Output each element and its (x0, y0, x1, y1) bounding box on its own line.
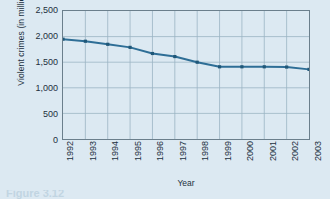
x-tick-label: 2003 (314, 141, 323, 161)
y-tick-label: 0 (22, 136, 58, 145)
grid-lines (63, 11, 309, 139)
data-point-marker (263, 65, 266, 68)
x-tick-label: 1994 (111, 141, 120, 161)
x-tick-label: 1999 (224, 141, 233, 161)
data-point-marker (106, 43, 109, 46)
x-axis-tick-labels: 1992199319941995199619971998199920002001… (62, 141, 310, 181)
x-tick-label: 1997 (179, 141, 188, 161)
x-tick-label: 1996 (156, 141, 165, 161)
data-point-marker (218, 65, 221, 68)
figure-caption-strip: Figure 3.12 (0, 190, 330, 199)
y-axis-tick-labels: 05001,0001,5002,0002,500 (20, 0, 58, 199)
line-chart-svg (63, 11, 309, 139)
y-tick-label: 1,500 (22, 58, 58, 67)
data-line (63, 39, 309, 69)
data-point-marker (63, 38, 65, 41)
x-tick-label: 1992 (66, 141, 75, 161)
data-point-marker (173, 55, 176, 58)
plot-area (62, 10, 310, 140)
x-tick-label: 1993 (89, 141, 98, 161)
data-point-marker (196, 61, 199, 64)
figure-caption: Figure 3.12 (6, 190, 64, 199)
data-point-marker (129, 46, 132, 49)
y-tick-label: 2,500 (22, 6, 58, 15)
x-tick-label: 2000 (246, 141, 255, 161)
data-point-marker (151, 52, 154, 55)
data-point-marker (84, 40, 87, 43)
x-tick-label: 2002 (291, 141, 300, 161)
y-tick-label: 2,000 (22, 32, 58, 41)
y-tick-label: 500 (22, 110, 58, 119)
x-tick-label: 1995 (134, 141, 143, 161)
x-axis-title: Year (62, 178, 310, 188)
figure-root: Violent crimes (in millions) 05001,0001,… (0, 0, 330, 199)
data-point-marker (240, 65, 243, 68)
y-tick-label: 1,000 (22, 84, 58, 93)
x-tick-label: 2001 (269, 141, 278, 161)
data-point-marker (307, 68, 309, 71)
x-tick-label: 1998 (201, 141, 210, 161)
data-point-marker (285, 65, 288, 68)
